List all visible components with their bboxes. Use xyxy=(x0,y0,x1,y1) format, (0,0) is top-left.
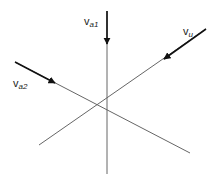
label-va2: va2 xyxy=(13,77,28,91)
label-va1: va1 xyxy=(84,15,98,29)
va2-arrow-icon xyxy=(15,62,55,83)
vector-va2 xyxy=(15,62,190,153)
label-vu: vu xyxy=(183,25,194,39)
vector-diagram: va1 vu va2 xyxy=(0,0,215,182)
